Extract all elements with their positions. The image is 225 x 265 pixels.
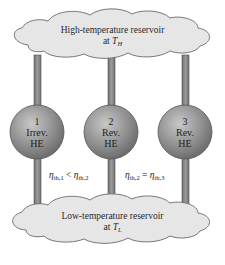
heat-engine-number: 3 (165, 116, 205, 127)
heat-engine-abbr: HE (91, 138, 131, 149)
low-reservoir-temp: at TL (40, 222, 185, 235)
low-reservoir-title: Low-temperature reservoir (40, 211, 185, 222)
heat-engine-type: Rev. (91, 127, 131, 138)
heat-engine-type: Irrev. (17, 127, 57, 138)
heat-engine-number: 1 (17, 116, 57, 127)
high-reservoir-label: High-temperature reservoir at TH (40, 25, 185, 49)
efficiency-relation-2-3: ηth,2 = ηth,3 (125, 170, 164, 181)
heat-engine-abbr: HE (17, 138, 57, 149)
high-reservoir-title: High-temperature reservoir (40, 25, 185, 36)
heat-engine-abbr: HE (165, 138, 205, 149)
heat-engine-3-label: 3 Rev. HE (165, 116, 205, 149)
heat-engine-1-label: 1 Irrev. HE (17, 116, 57, 149)
efficiency-relation-1-2: ηth,1 < ηth,2 (49, 170, 88, 181)
heat-engine-number: 2 (91, 116, 131, 127)
high-reservoir-temp: at TH (40, 36, 185, 49)
heat-engine-2-label: 2 Rev. HE (91, 116, 131, 149)
heat-engine-type: Rev. (165, 127, 205, 138)
low-reservoir-label: Low-temperature reservoir at TL (40, 211, 185, 235)
